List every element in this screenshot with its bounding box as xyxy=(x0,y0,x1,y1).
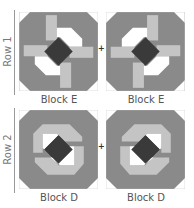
block-e-left-label: Block E xyxy=(19,94,99,105)
block-d-right xyxy=(106,110,185,189)
join-plus-row-2: + xyxy=(98,142,105,151)
row-2-label: Row 2 xyxy=(2,120,13,180)
block-e-left xyxy=(19,12,98,91)
block-d-left-label: Block D xyxy=(19,192,99,203)
row-2-bracket xyxy=(14,108,15,193)
block-e-right-label: Block E xyxy=(106,94,186,105)
join-plus-row-1: + xyxy=(98,44,105,53)
block-d-left xyxy=(19,110,98,189)
row-1-bracket xyxy=(14,10,15,95)
block-e-right xyxy=(106,12,185,91)
block-d-right-label: Block D xyxy=(106,192,186,203)
row-1-label: Row 1 xyxy=(2,22,13,82)
